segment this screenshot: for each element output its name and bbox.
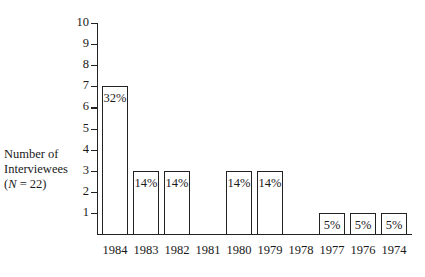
bar-1983: 14% bbox=[133, 171, 159, 235]
y-tick-mark bbox=[91, 213, 97, 214]
x-tick-label: 1981 bbox=[193, 243, 224, 258]
x-tick-label: 1984 bbox=[100, 243, 131, 258]
y-tick-label: 2 bbox=[69, 184, 89, 199]
y-tick-mark bbox=[91, 171, 97, 172]
bar-1982: 14% bbox=[164, 171, 190, 235]
bar-1984: 32% bbox=[102, 86, 128, 235]
y-axis-line bbox=[97, 23, 98, 235]
x-tick-label: 1982 bbox=[162, 243, 193, 258]
y-tick-label: 7 bbox=[69, 78, 89, 93]
y-tick-label: 1 bbox=[69, 205, 89, 220]
x-tick-label: 1980 bbox=[224, 243, 255, 258]
y-tick-label: 9 bbox=[69, 36, 89, 51]
y-tick-label: 4 bbox=[69, 142, 89, 157]
y-tick-mark bbox=[91, 129, 97, 130]
y-tick-mark bbox=[91, 65, 97, 66]
bar-1980: 14% bbox=[226, 171, 252, 235]
x-tick-label: 1979 bbox=[255, 243, 286, 258]
bar-1976: 5% bbox=[350, 213, 376, 235]
bar-chart: Number of Interviewees (N = 22) 12345678… bbox=[0, 0, 425, 277]
y-tick-label: 5 bbox=[69, 121, 89, 136]
bar-percent-label: 5% bbox=[351, 218, 375, 233]
x-tick-label: 1976 bbox=[348, 243, 379, 258]
bar-1977: 5% bbox=[319, 213, 345, 235]
bar-1979: 14% bbox=[257, 171, 283, 235]
y-tick-mark bbox=[91, 86, 97, 87]
y-tick-mark bbox=[91, 150, 97, 151]
y-tick-label: 8 bbox=[69, 57, 89, 72]
bar-percent-label: 5% bbox=[382, 218, 406, 233]
y-tick-label: 10 bbox=[69, 15, 89, 30]
bar-1974: 5% bbox=[381, 213, 407, 235]
y-tick-mark bbox=[91, 23, 97, 24]
y-tick-label: 3 bbox=[69, 163, 89, 178]
bar-percent-label: 14% bbox=[165, 176, 189, 191]
y-tick-mark bbox=[91, 107, 97, 108]
x-tick-label: 1977 bbox=[317, 243, 348, 258]
y-tick-label: 6 bbox=[69, 99, 89, 114]
x-tick-label: 1983 bbox=[131, 243, 162, 258]
x-tick-label: 1974 bbox=[379, 243, 410, 258]
bar-percent-label: 14% bbox=[134, 176, 158, 191]
y-tick-mark bbox=[91, 44, 97, 45]
y-tick-mark bbox=[91, 192, 97, 193]
bar-percent-label: 32% bbox=[103, 91, 127, 106]
bar-percent-label: 5% bbox=[320, 218, 344, 233]
bar-percent-label: 14% bbox=[227, 176, 251, 191]
bar-percent-label: 14% bbox=[258, 176, 282, 191]
x-tick-label: 1978 bbox=[286, 243, 317, 258]
